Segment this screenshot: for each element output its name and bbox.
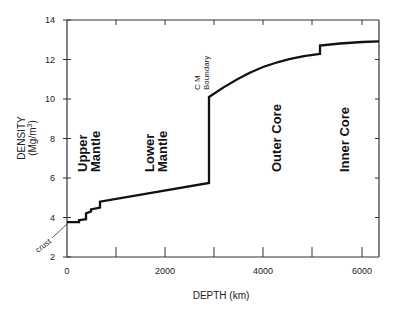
top-ticks (116, 20, 362, 25)
svg-text:4: 4 (50, 213, 55, 223)
x-ticks (116, 247, 362, 257)
density-depth-chart: 2 4 6 8 10 12 14 0 2000 4000 6000 DEPTH … (0, 0, 395, 312)
region-lower-mantle: Lower Mantle (142, 131, 170, 172)
cmb-annotation: C M Boundary (193, 56, 211, 90)
svg-text:8: 8 (50, 134, 55, 144)
y-tick-labels: 2 4 6 8 10 12 14 (45, 15, 55, 262)
svg-text:2: 2 (50, 252, 55, 262)
svg-text:4000: 4000 (253, 266, 273, 276)
x-axis-title: DEPTH (km) (193, 290, 250, 301)
crust-annotation: crust (34, 224, 67, 255)
svg-text:Mantle: Mantle (155, 131, 170, 172)
region-outer-core: Outer Core (269, 104, 284, 172)
svg-text:C M: C M (193, 75, 202, 90)
svg-text:12: 12 (45, 55, 55, 65)
svg-text:Boundary: Boundary (202, 56, 211, 90)
svg-text:14: 14 (45, 15, 55, 25)
plot-frame (67, 20, 379, 257)
svg-text:(Mg/m3): (Mg/m3) (26, 120, 38, 156)
svg-text:0: 0 (64, 266, 69, 276)
region-upper-mantle: Upper Mantle (75, 131, 103, 172)
svg-text:Mantle: Mantle (88, 131, 103, 172)
y-axis-title: DENSITY (Mg/m3) (16, 116, 38, 160)
svg-text:6: 6 (50, 173, 55, 183)
svg-text:10: 10 (45, 94, 55, 104)
region-inner-core: Inner Core (337, 107, 352, 172)
svg-text:2000: 2000 (155, 266, 175, 276)
svg-text:6000: 6000 (352, 266, 372, 276)
svg-text:DENSITY: DENSITY (16, 116, 27, 160)
density-curve (67, 41, 379, 222)
x-tick-labels: 0 2000 4000 6000 (64, 266, 372, 276)
